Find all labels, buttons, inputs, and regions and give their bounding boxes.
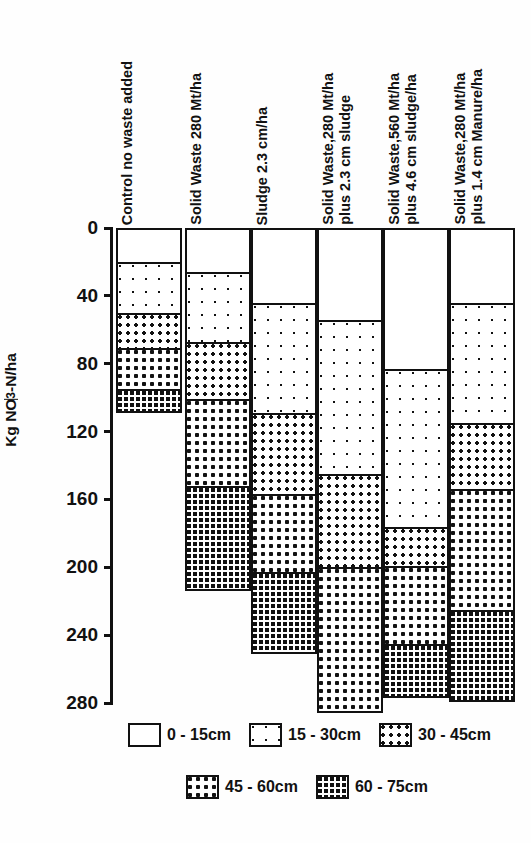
y-axis-label-text: Kg NO [2, 399, 19, 447]
legend-item-30-45cm[interactable]: 30 - 45cm [379, 723, 491, 747]
y-tick-40 [104, 294, 113, 297]
bar-3-segment-4[interactable] [251, 494, 317, 574]
bar-5-segment-5[interactable] [383, 644, 449, 699]
legend-swatch-2-1 [186, 775, 219, 799]
bar-2-segment-3[interactable] [185, 342, 251, 402]
bar-6-segment-2[interactable] [449, 303, 515, 425]
legend-label-2-2: 60 - 75cm [355, 778, 428, 796]
legend-swatch-1-1 [128, 723, 161, 747]
legend-item-60-75cm[interactable]: 60 - 75cm [316, 775, 428, 799]
y-tick-label-240: 240 [20, 625, 98, 644]
bar-5-segment-2[interactable] [383, 369, 449, 529]
legend-label-2-1: 45 - 60cm [225, 778, 298, 796]
y-tick-240 [104, 634, 113, 637]
legend-swatch-1-3 [379, 723, 412, 747]
y-tick-label-280: 280 [20, 693, 98, 712]
bar-4-segment-3[interactable] [317, 474, 383, 569]
bar-4-segment-2[interactable] [317, 320, 383, 476]
bar-6[interactable] [449, 228, 515, 700]
bar-6-segment-5[interactable] [449, 610, 515, 702]
bar-6-segment-1[interactable] [449, 228, 515, 305]
y-tick-label-40: 40 [20, 286, 98, 305]
bar-5-segment-1[interactable] [383, 228, 449, 371]
y-tick-label-120: 120 [20, 422, 98, 441]
bar-4-segment-4[interactable] [317, 567, 383, 713]
bar-2-segment-2[interactable] [185, 272, 251, 344]
legend-label-1-3: 30 - 45cm [418, 726, 491, 744]
y-tick-80 [104, 362, 113, 365]
y-tick-label-80: 80 [20, 354, 98, 373]
bar-3-segment-1[interactable] [251, 228, 317, 305]
bar-1-segment-4[interactable] [116, 348, 182, 391]
legend-label-1-1: 0 - 15cm [167, 726, 231, 744]
bar-3-segment-2[interactable] [251, 303, 317, 415]
bar-2-segment-1[interactable] [185, 228, 251, 274]
bar-1-segment-3[interactable] [116, 313, 182, 351]
legend-item-0-15cm[interactable]: 0 - 15cm [128, 723, 231, 747]
legend-item-15-30cm[interactable]: 15 - 30cm [249, 723, 361, 747]
bar-6-segment-3[interactable] [449, 423, 515, 491]
y-tick-160 [104, 498, 113, 501]
legend-label-1-2: 15 - 30cm [288, 726, 361, 744]
bar-5-segment-3[interactable] [383, 527, 449, 568]
y-axis-label-suffix: -N/ha [2, 353, 19, 392]
y-tick-label-200: 200 [20, 557, 98, 576]
chart-plot-area: 04080120160200240280 Kg NO3-N/ha [0, 0, 531, 843]
bar-3-segment-5[interactable] [251, 572, 317, 654]
bar-3[interactable] [251, 228, 317, 652]
bar-4-segment-1[interactable] [317, 228, 383, 322]
legend-row-2: 45 - 60cm60 - 75cm [186, 775, 446, 799]
y-tick-label-160: 160 [20, 489, 98, 508]
bar-1-segment-2[interactable] [116, 262, 182, 315]
legend-row-1: 0 - 15cm15 - 30cm30 - 45cm [128, 723, 509, 747]
legend-swatch-1-2 [249, 723, 282, 747]
y-tick-200 [104, 566, 113, 569]
bar-2[interactable] [185, 228, 251, 589]
y-axis-label: Kg NO3-N/ha [2, 353, 20, 447]
y-tick-120 [104, 430, 113, 433]
bar-2-segment-5[interactable] [185, 486, 251, 591]
bar-5[interactable] [383, 228, 449, 696]
bar-1-segment-1[interactable] [116, 228, 182, 264]
y-axis-line [110, 227, 113, 704]
y-axis-label-subscript: 3 [4, 392, 18, 399]
legend-item-45-60cm[interactable]: 45 - 60cm [186, 775, 298, 799]
legend-swatch-2-2 [316, 775, 349, 799]
y-tick-280 [104, 702, 113, 705]
bar-1-segment-5[interactable] [116, 389, 182, 413]
y-tick-0 [104, 227, 113, 230]
bar-2-segment-4[interactable] [185, 399, 251, 488]
bar-4[interactable] [317, 228, 383, 711]
y-tick-label-0: 0 [20, 218, 98, 237]
bar-3-segment-3[interactable] [251, 413, 317, 496]
bar-1[interactable] [116, 228, 182, 411]
bar-6-segment-4[interactable] [449, 489, 515, 611]
bar-5-segment-4[interactable] [383, 566, 449, 646]
